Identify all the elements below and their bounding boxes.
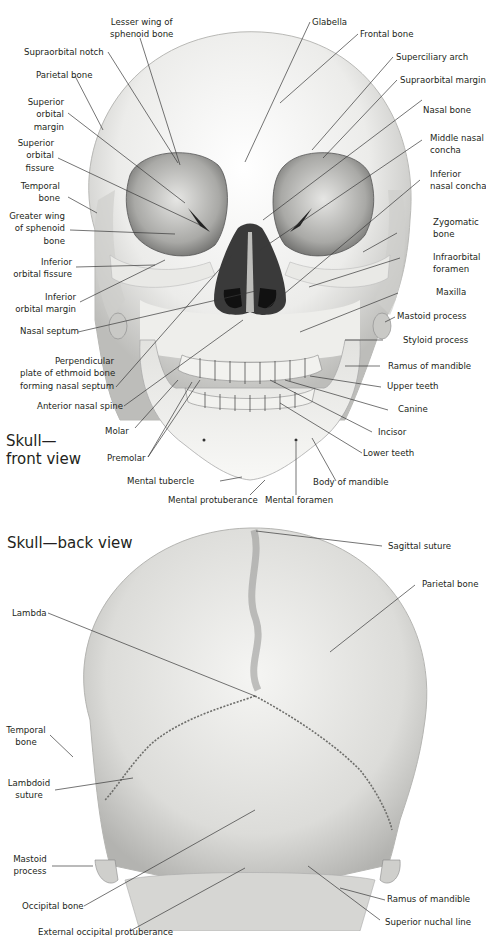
label-line: margin bbox=[22, 121, 64, 133]
label-mastoid-process-front: Mastoid process bbox=[397, 310, 466, 322]
front-right-orbit bbox=[273, 153, 374, 256]
label-canine: Canine bbox=[398, 403, 428, 415]
label-line: Infraorbital bbox=[433, 251, 480, 263]
label-line: bone bbox=[8, 235, 65, 247]
label-line: Zygomatic bbox=[433, 216, 479, 228]
label-line: bone bbox=[433, 228, 479, 240]
label-supraorbital-margin: Supraorbital margin bbox=[400, 74, 486, 86]
label-line: Mastoid bbox=[10, 853, 50, 865]
label-line: Inferior bbox=[14, 291, 76, 303]
label-zygomatic-bone: Zygomatic bone bbox=[433, 216, 479, 241]
label-styloid-process: Styloid process bbox=[403, 334, 468, 346]
label-body-of-mandible: Body of mandible bbox=[313, 476, 389, 488]
label-premolar: Premolar bbox=[107, 452, 145, 464]
label-greater-wing-of-sphenoid: Greater wing of sphenoid bone bbox=[8, 210, 65, 247]
label-lambdoid-suture: Lambdoid suture bbox=[6, 777, 52, 802]
label-line: Temporal bbox=[14, 180, 60, 192]
label-perpendicular-plate: Perpendicular plate of ethmoid bone form… bbox=[20, 355, 114, 392]
label-line: Perpendicular bbox=[20, 355, 114, 367]
label-superior-orbital-margin: Superior orbital margin bbox=[22, 96, 64, 133]
label-glabella: Glabella bbox=[312, 16, 347, 28]
label-incisor: Incisor bbox=[378, 426, 406, 438]
label-line: Middle nasal bbox=[430, 132, 484, 144]
label-nasal-septum: Nasal septum bbox=[20, 325, 79, 337]
label-anterior-nasal-spine: Anterior nasal spine bbox=[37, 400, 123, 412]
label-line: forming nasal septum bbox=[20, 380, 114, 392]
label-line: Temporal bbox=[6, 724, 46, 736]
label-mental-foramen: Mental foramen bbox=[265, 494, 333, 506]
label-line: bone bbox=[14, 192, 60, 204]
label-superciliary-arch: Superciliary arch bbox=[396, 51, 468, 63]
label-frontal-bone: Frontal bone bbox=[360, 28, 414, 40]
label-line: orbital bbox=[14, 149, 54, 161]
label-ramus-of-mandible-back: Ramus of mandible bbox=[387, 893, 470, 905]
label-inferior-orbital-fissure: Inferior orbital fissure bbox=[10, 256, 72, 281]
label-ramus-of-mandible-front: Ramus of mandible bbox=[388, 360, 471, 372]
label-line: plate of ethmoid bone bbox=[20, 367, 114, 379]
label-line: Lambdoid bbox=[6, 777, 52, 789]
label-molar: Molar bbox=[105, 425, 129, 437]
label-line: sphenoid bone bbox=[110, 28, 173, 40]
label-lambda: Lambda bbox=[12, 607, 47, 619]
label-superior-nuchal-line: Superior nuchal line bbox=[385, 916, 471, 928]
label-upper-teeth: Upper teeth bbox=[387, 380, 439, 392]
label-line: process bbox=[10, 865, 50, 877]
label-maxilla: Maxilla bbox=[436, 286, 466, 298]
label-inferior-nasal-concha: Inferior nasal concha bbox=[430, 168, 486, 193]
label-supraorbital-notch: Supraorbital notch bbox=[24, 46, 104, 58]
label-line: of sphenoid bbox=[8, 222, 65, 234]
label-line: orbital fissure bbox=[10, 268, 72, 280]
label-line: suture bbox=[6, 789, 52, 801]
label-external-occipital-protuberance: External occipital protuberance bbox=[38, 926, 173, 938]
label-lower-teeth: Lower teeth bbox=[363, 447, 414, 459]
label-middle-nasal-concha: Middle nasal concha bbox=[430, 132, 484, 157]
label-inferior-orbital-margin: Inferior orbital margin bbox=[14, 291, 76, 316]
label-line: foramen bbox=[433, 263, 480, 275]
front-view-title: Skull— front view bbox=[6, 432, 81, 468]
label-line: Lesser wing of bbox=[110, 16, 173, 28]
label-mental-tubercle: Mental tubercle bbox=[127, 475, 194, 487]
label-superior-orbital-fissure: Superior orbital fissure bbox=[14, 137, 54, 174]
label-line: orbital margin bbox=[14, 303, 76, 315]
label-line: Superior bbox=[14, 137, 54, 149]
label-line: Greater wing bbox=[8, 210, 65, 222]
label-lesser-wing-of-sphenoid-bone: Lesser wing of sphenoid bone bbox=[110, 16, 173, 41]
label-parietal-bone-back: Parietal bone bbox=[422, 578, 478, 590]
label-line: fissure bbox=[14, 162, 54, 174]
label-nasal-bone: Nasal bone bbox=[423, 104, 471, 116]
label-line: nasal concha bbox=[430, 180, 486, 192]
label-mastoid-process-back: Mastoid process bbox=[10, 853, 50, 878]
label-line: Inferior bbox=[430, 168, 486, 180]
title-line: front view bbox=[6, 450, 81, 468]
title-line: Skull— bbox=[6, 432, 81, 450]
label-parietal-bone-front: Parietal bone bbox=[36, 69, 92, 81]
back-view-title: Skull—back view bbox=[7, 534, 133, 552]
label-sagittal-suture: Sagittal suture bbox=[388, 540, 451, 552]
front-left-orbit bbox=[126, 153, 227, 256]
label-line: Superior bbox=[22, 96, 64, 108]
back-skull bbox=[48, 528, 427, 931]
label-infraorbital-foramen: Infraorbital foramen bbox=[433, 251, 480, 276]
label-line: bone bbox=[6, 736, 46, 748]
label-line: Inferior bbox=[10, 256, 72, 268]
label-line: orbital bbox=[22, 108, 64, 120]
label-occipital-bone: Occipital bone bbox=[22, 900, 84, 912]
label-line: concha bbox=[430, 144, 484, 156]
label-temporal-bone-back: Temporal bone bbox=[6, 724, 46, 749]
label-mental-protuberance: Mental protuberance bbox=[168, 494, 258, 506]
label-temporal-bone-front: Temporal bone bbox=[14, 180, 60, 205]
